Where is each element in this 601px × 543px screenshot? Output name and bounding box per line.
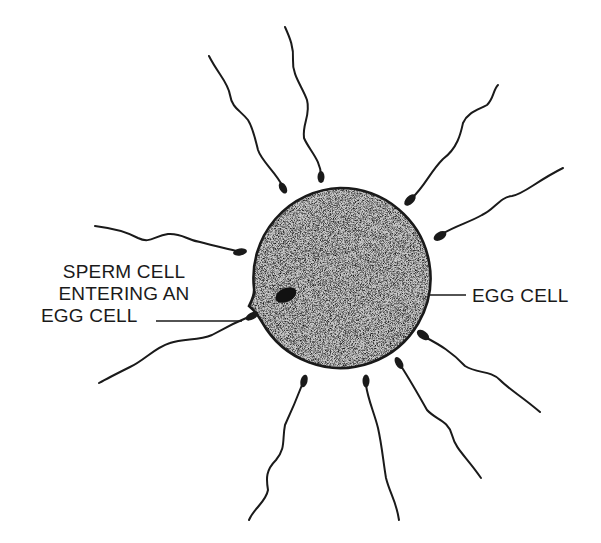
label-sperm-entering-egg: SPERM CELL ENTERING AN EGG CELL: [31, 261, 217, 327]
label-sperm-line3: EGG CELL: [31, 305, 217, 327]
sperm-top-left: [209, 56, 289, 195]
sperm-bottom-center: [363, 375, 400, 521]
label-sperm-line1: SPERM CELL: [31, 261, 217, 283]
sperm-bottom-left: [249, 374, 309, 520]
sperm-upper-right: [402, 85, 498, 208]
egg-cell: [240, 180, 440, 380]
label-sperm-line2: ENTERING AN: [31, 283, 217, 305]
sperm-left: [95, 226, 248, 257]
sperm-top-center: [285, 27, 325, 183]
sperm-lower-right: [415, 328, 540, 412]
fertilization-diagram: SPERM CELL ENTERING AN EGG CELL EGG CELL: [0, 0, 601, 543]
label-egg-cell: EGG CELL: [472, 285, 569, 307]
sperm-right: [432, 168, 563, 243]
sperm-bottom-right: [393, 356, 481, 478]
